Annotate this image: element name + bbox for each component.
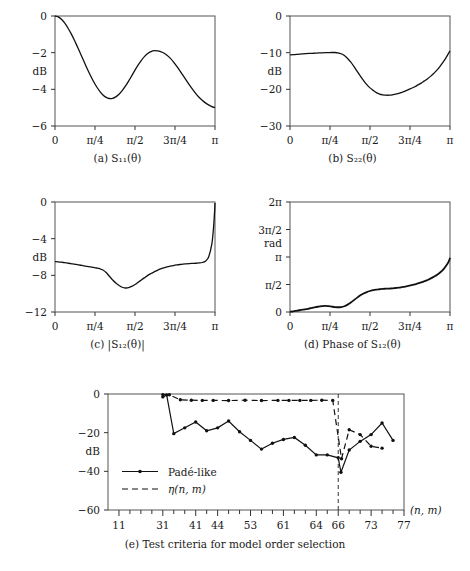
panel-e-caption: (e) Test criteria for model order select… bbox=[0, 538, 470, 550]
panel-e-data-point bbox=[282, 438, 285, 441]
panel-e-data-point bbox=[293, 436, 296, 439]
panel-b-xtick-0: 0 bbox=[287, 134, 294, 146]
panel-a-ylabel: dB bbox=[33, 65, 48, 77]
panel-e-data-point bbox=[369, 445, 372, 448]
panel-e-data-point bbox=[340, 457, 343, 460]
panel-e-data-point bbox=[227, 399, 230, 402]
panel-c-xtick-1: π/4 bbox=[86, 320, 103, 332]
panel-e-xtick-4: 53 bbox=[244, 519, 257, 531]
panel-e-xtick-7: 66 bbox=[332, 519, 346, 531]
panel-e-data-point bbox=[190, 398, 193, 401]
panel-e-data-point bbox=[168, 393, 171, 396]
panel-c-ytick-0: 0 bbox=[40, 196, 47, 208]
panel-c-caption: (c) |S₁₂(θ)| bbox=[0, 338, 235, 350]
panel-a-ytick-0: 0 bbox=[40, 10, 47, 22]
panel-e-data-point bbox=[391, 439, 394, 442]
panel-c-yticks: 0 −4 −8 −12 dB bbox=[25, 196, 55, 318]
panel-e-xtick-0: 11 bbox=[112, 519, 125, 531]
panel-d-xtick-2: π/2 bbox=[361, 320, 378, 332]
panel-e-data-point bbox=[347, 428, 350, 431]
panel-e-data-point bbox=[320, 398, 323, 401]
panel-e-data-point bbox=[380, 421, 383, 424]
panel-b-curve bbox=[290, 51, 450, 95]
panel-e-chart: 0 −20 −40 −60 dB 11314144536164667377 Pa… bbox=[0, 382, 470, 571]
panel-e-data-point bbox=[172, 432, 175, 435]
panel-e-xlabel: (n, m) bbox=[410, 504, 442, 516]
panel-e-axes bbox=[108, 394, 404, 510]
panel-e-ylabel: dB bbox=[86, 445, 101, 457]
panel-a-ytick-2: −4 bbox=[32, 83, 48, 95]
panel-b-svg: 0 −10 −20 −30 dB 0 π/4 π/2 3π/4 π bbox=[235, 0, 470, 172]
panel-e-data-point bbox=[315, 453, 318, 456]
panel-d-xtick-1: π/4 bbox=[321, 320, 338, 332]
panel-e-markers bbox=[161, 393, 395, 474]
panel-e-data-point bbox=[309, 399, 312, 402]
panel-e-data-point bbox=[216, 426, 219, 429]
panel-d-svg: 2π 3π/2 π π/2 0 rad 0 π/4 π/2 3π/4 π bbox=[235, 186, 470, 358]
panel-c-xtick-2: π/2 bbox=[126, 320, 143, 332]
panel-e-ytick-1: −20 bbox=[78, 427, 100, 439]
panel-a-svg: 0 −2 −4 −6 dB 0 π/4 π/2 3π/4 π bbox=[0, 0, 235, 172]
panel-e-data-point bbox=[201, 399, 204, 402]
panel-d-axes bbox=[290, 202, 450, 312]
panel-e-data-point bbox=[287, 399, 290, 402]
panel-e-data-point bbox=[243, 398, 246, 401]
panel-e-data-point bbox=[183, 426, 186, 429]
panel-e-data-point bbox=[194, 420, 197, 423]
panel-b-ytick-0: 0 bbox=[275, 10, 282, 22]
panel-d-chart: 2π 3π/2 π π/2 0 rad 0 π/4 π/2 3π/4 π (d)… bbox=[235, 186, 470, 358]
panel-c-xtick-4: π bbox=[212, 320, 219, 332]
panel-e-legend-label-pade: Padé-like bbox=[168, 466, 217, 478]
panel-e-legend: Padé-like η(n, m) bbox=[122, 466, 217, 496]
panel-b-xticks: 0 π/4 π/2 3π/4 π bbox=[287, 126, 454, 146]
panel-e-data-point bbox=[212, 399, 215, 402]
panel-e-data-point bbox=[339, 471, 342, 474]
panel-e-xtick-5: 61 bbox=[277, 519, 290, 531]
panel-c-ytick-3: −12 bbox=[25, 306, 47, 318]
panel-c-curve bbox=[55, 203, 215, 288]
panel-d-ytick-4: 2π bbox=[268, 196, 282, 208]
panel-e-xtick-9: 77 bbox=[397, 519, 410, 531]
panel-d-caption: (d) Phase of S₁₂(θ) bbox=[235, 338, 470, 350]
panel-d-ytick-1: π/2 bbox=[265, 279, 282, 291]
panel-e-data-point bbox=[304, 444, 307, 447]
panel-b-ytick-1: −10 bbox=[260, 47, 282, 59]
panel-e-xtick-2: 41 bbox=[189, 519, 202, 531]
panel-b-yticks: 0 −10 −20 −30 dB bbox=[260, 10, 290, 132]
panel-e-data-point bbox=[179, 398, 182, 401]
panel-c-svg: 0 −4 −8 −12 dB 0 π/4 π/2 3π/4 π bbox=[0, 186, 235, 358]
panel-b-chart: 0 −10 −20 −30 dB 0 π/4 π/2 3π/4 π (b) S₂… bbox=[235, 0, 470, 172]
panel-e-xticks bbox=[119, 510, 404, 516]
panel-e-data-point bbox=[380, 446, 383, 449]
panel-b-ytick-2: −20 bbox=[260, 83, 282, 95]
panel-a-xtick-1: π/4 bbox=[86, 134, 103, 146]
panel-e-data-point bbox=[298, 399, 301, 402]
panel-e-xtick-3: 44 bbox=[211, 519, 225, 531]
panel-b-axes bbox=[290, 16, 450, 126]
panel-b-xtick-1: π/4 bbox=[321, 134, 338, 146]
panel-e-data-point bbox=[358, 433, 361, 436]
panel-a-xtick-0: 0 bbox=[52, 134, 59, 146]
panel-a-ytick-1: −2 bbox=[32, 47, 47, 59]
panel-b-xtick-4: π bbox=[447, 134, 454, 146]
panel-e-data-point bbox=[205, 429, 208, 432]
panel-e-data-point bbox=[358, 440, 361, 443]
panel-e-data-point bbox=[161, 393, 164, 396]
panel-c-ytick-1: −4 bbox=[32, 233, 48, 245]
panel-b-xtick-3: 3π/4 bbox=[398, 134, 422, 146]
panel-a-xticks: 0 π/4 π/2 3π/4 π bbox=[52, 126, 219, 146]
panel-e-data-point bbox=[260, 447, 263, 450]
panel-a-caption: (a) S₁₁(θ) bbox=[0, 152, 235, 164]
panel-e-ytick-3: −60 bbox=[78, 504, 100, 516]
panel-b-caption: (b) S₂₂(θ) bbox=[235, 152, 470, 164]
panel-e-data-point bbox=[331, 399, 334, 402]
panel-e-xtick-labels: 11314144536164667377 bbox=[112, 519, 410, 531]
panel-e-data-point bbox=[326, 453, 329, 456]
panel-c-xtick-3: 3π/4 bbox=[163, 320, 187, 332]
panel-e-legend-label-eta: η(n, m) bbox=[168, 483, 206, 495]
panel-d-ytick-3: 3π/2 bbox=[258, 224, 282, 236]
panel-e-data-point bbox=[260, 399, 263, 402]
panel-c-xticks: 0 π/4 π/2 3π/4 π bbox=[52, 312, 219, 332]
panel-a-yticks: 0 −2 −4 −6 dB bbox=[32, 10, 55, 132]
panel-e-data-point bbox=[227, 419, 230, 422]
